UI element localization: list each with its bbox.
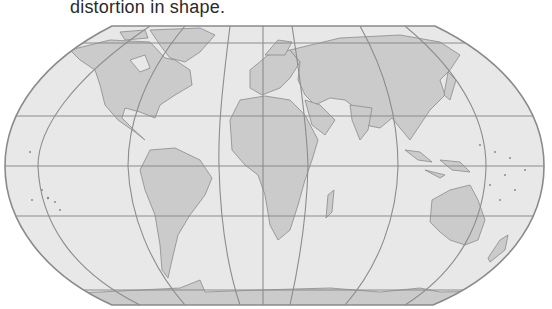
world-map [0,0,552,309]
